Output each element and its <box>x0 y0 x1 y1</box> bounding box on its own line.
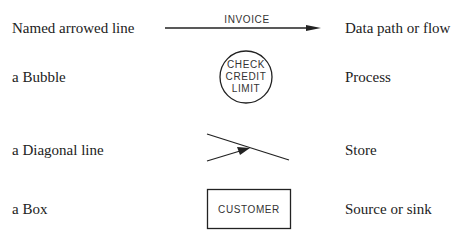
flow-label: INVOICE <box>224 14 269 25</box>
symbols-diagram: INVOICE CHECK CREDIT LIMIT CUSTOMER <box>0 0 464 239</box>
source-sink-box-icon: CUSTOMER <box>208 190 291 229</box>
bubble-label-line-3: LIMIT <box>232 83 261 94</box>
bubble-label-line-2: CREDIT <box>226 71 267 82</box>
process-bubble-icon: CHECK CREDIT LIMIT <box>220 51 272 103</box>
store-diagonal-line-icon <box>207 134 289 161</box>
box-label: CUSTOMER <box>218 204 280 215</box>
bubble-label-line-1: CHECK <box>227 59 265 70</box>
data-flow-arrow-icon: INVOICE <box>165 14 321 31</box>
